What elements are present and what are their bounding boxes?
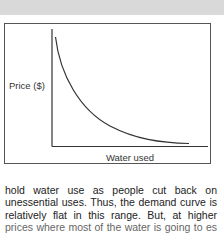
x-axis-label: Water used xyxy=(52,152,208,163)
body-paragraph: hold water use as people cut back on une… xyxy=(5,184,217,233)
demand-curve xyxy=(56,37,190,144)
body-line: hold water use as people cut back on xyxy=(5,184,217,196)
body-line: unessential uses. Thus, the demand curve… xyxy=(5,196,217,208)
y-axis-label: Price ($) xyxy=(9,80,45,91)
body-line-cut-off: prices where most of the water is going … xyxy=(5,221,217,233)
body-line: relatively flat in this range. But, at h… xyxy=(5,209,217,221)
